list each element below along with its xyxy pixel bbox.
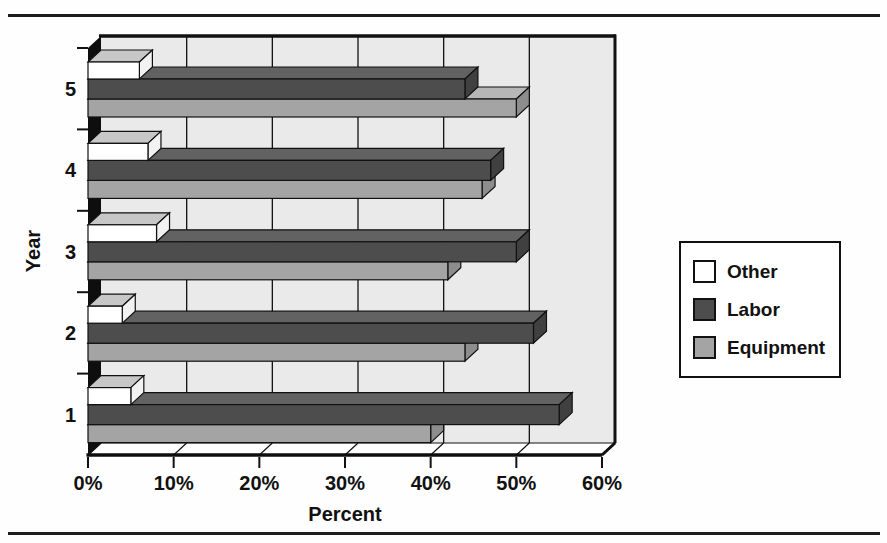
legend-label-equipment: Equipment bbox=[727, 338, 825, 357]
x-tick-label: 30% bbox=[325, 472, 365, 494]
x-tick-label: 0% bbox=[74, 472, 103, 494]
bar-other-year-3-top-face bbox=[88, 213, 170, 225]
y-tick-label: 3 bbox=[65, 241, 76, 263]
x-tick-label: 50% bbox=[496, 472, 536, 494]
x-tick-label: 40% bbox=[411, 472, 451, 494]
x-tick-label: 20% bbox=[239, 472, 279, 494]
legend-swatch-other-icon bbox=[693, 260, 716, 283]
bar-labor-year-2 bbox=[88, 323, 533, 343]
bottom-rule bbox=[8, 532, 880, 535]
bar-labor-year-1-top-face bbox=[88, 393, 572, 405]
legend-entry-other: Other bbox=[693, 260, 839, 283]
legend-label-labor: Labor bbox=[727, 300, 780, 319]
y-axis-title: Year bbox=[22, 230, 44, 272]
x-tick-label: 10% bbox=[154, 472, 194, 494]
legend-label-other: Other bbox=[727, 262, 778, 281]
chart-render-layer: 0%10%20%30%40%50%60%54321 bbox=[65, 35, 622, 495]
bar-equipment-year-5 bbox=[88, 99, 516, 117]
legend-swatch-equipment-icon bbox=[693, 336, 716, 359]
bar-other-year-3 bbox=[88, 225, 157, 242]
bar-other-year-1 bbox=[88, 388, 131, 405]
bar-labor-year-1 bbox=[88, 405, 559, 425]
y-tick-label: 1 bbox=[65, 404, 76, 426]
bar-labor-year-2-top-face bbox=[88, 311, 546, 323]
bar-equipment-year-4 bbox=[88, 180, 482, 198]
x-axis-title: Percent bbox=[308, 503, 382, 525]
legend-entry-labor: Labor bbox=[693, 298, 839, 321]
bar-labor-year-5 bbox=[88, 79, 465, 99]
bar-labor-year-3 bbox=[88, 242, 516, 262]
page: 0%10%20%30%40%50%60%54321 Percent Year O… bbox=[0, 0, 887, 543]
y-tick-label: 2 bbox=[65, 322, 76, 344]
x-tick-label: 60% bbox=[582, 472, 622, 494]
bar-equipment-year-2 bbox=[88, 343, 465, 361]
bar-labor-year-4 bbox=[88, 160, 491, 180]
y-tick-label: 5 bbox=[65, 78, 76, 100]
bar-equipment-year-3 bbox=[88, 262, 448, 280]
legend-swatch-labor-icon bbox=[693, 298, 716, 321]
legend-entry-equipment: Equipment bbox=[693, 336, 839, 359]
legend: Other Labor Equipment bbox=[679, 241, 841, 378]
y-tick-label: 4 bbox=[65, 159, 77, 181]
bar-equipment-year-1 bbox=[88, 425, 431, 443]
bar-other-year-4 bbox=[88, 143, 148, 160]
bar-other-year-5 bbox=[88, 62, 139, 79]
bar-other-year-2 bbox=[88, 306, 122, 323]
